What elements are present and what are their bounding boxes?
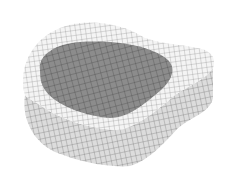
mesh-figure — [0, 0, 231, 180]
vertebra-mesh-illustration — [0, 0, 231, 180]
